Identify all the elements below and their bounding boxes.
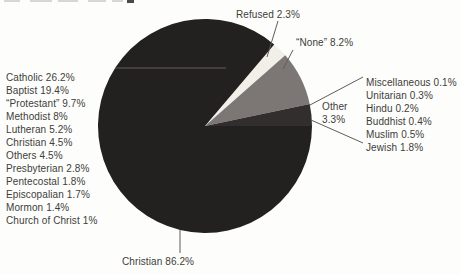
slice-label-christian: Christian 86.2% <box>122 255 194 268</box>
breakdown-item-episcopalian: Episcopalian 1.7% <box>6 188 97 201</box>
breakdown-item-church-of-christ: Church of Christ 1% <box>6 214 97 227</box>
breakdown-item-hindu: Hindu 0.2% <box>366 102 457 115</box>
slice-label-other-line2: 3.3% <box>322 113 348 126</box>
pie <box>98 19 312 233</box>
breakdown-item-others: Others 4.5% <box>6 149 97 162</box>
breakdown-item-jewish: Jewish 1.8% <box>366 141 457 154</box>
breakdown-item-baptist: Baptist 19.4% <box>6 84 97 97</box>
breakdown-item-presbyterian: Presbyterian 2.8% <box>6 162 97 175</box>
pie-chart-figure: Refused 2.3% “None” 8.2% Other 3.3% Chri… <box>0 0 461 275</box>
slice-label-refused: Refused 2.3% <box>236 8 300 21</box>
breakdown-item-mormon: Mormon 1.4% <box>6 201 97 214</box>
breakdown-item-lutheran: Lutheran 5.2% <box>6 123 97 136</box>
slice-label-other: Other 3.3% <box>322 100 348 126</box>
breakdown-item-christian: Christian 4.5% <box>6 136 97 149</box>
slice-label-other-line1: Other <box>322 100 348 113</box>
breakdown-item-unitarian: Unitarian 0.3% <box>366 89 457 102</box>
breakdown-item-pentecostal: Pentecostal 1.8% <box>6 175 97 188</box>
christian-breakdown-list: Catholic 26.2% Baptist 19.4% “Protestant… <box>6 71 97 227</box>
breakdown-item-protestant: “Protestant” 9.7% <box>6 97 97 110</box>
slice-label-none: “None” 8.2% <box>296 36 353 49</box>
other-breakdown-list: Miscellaneous 0.1% Unitarian 0.3% Hindu … <box>366 76 457 154</box>
breakdown-item-catholic: Catholic 26.2% <box>6 71 97 84</box>
breakdown-item-muslim: Muslim 0.5% <box>366 128 457 141</box>
breakdown-item-miscellaneous: Miscellaneous 0.1% <box>366 76 457 89</box>
breakdown-item-methodist: Methodist 8% <box>6 110 97 123</box>
breakdown-item-buddhist: Buddhist 0.4% <box>366 115 457 128</box>
